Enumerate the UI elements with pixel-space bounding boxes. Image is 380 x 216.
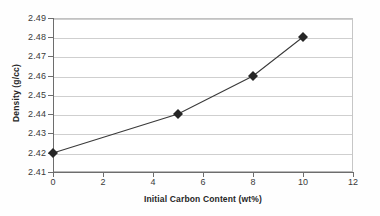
series-markers	[48, 32, 308, 158]
data-point-marker	[48, 148, 58, 158]
y-axis-tick-label: 2.44	[28, 110, 46, 119]
data-point-marker	[248, 71, 258, 81]
series-line	[53, 37, 303, 153]
y-axis-tick-label: 2.48	[28, 33, 46, 42]
x-axis-tick-label: 6	[183, 178, 223, 187]
y-axis-tick-label: 2.43	[28, 129, 46, 138]
y-axis-tick-label: 2.46	[28, 72, 46, 81]
y-axis-tick-label: 2.45	[28, 91, 46, 100]
y-axis-tick-label: 2.47	[28, 52, 46, 61]
x-axis-tick-label: 0	[33, 178, 73, 187]
x-axis-tick-label: 2	[83, 178, 123, 187]
data-point-marker	[298, 32, 308, 42]
x-axis-tick-label: 12	[333, 178, 373, 187]
x-axis-tick-label: 8	[233, 178, 273, 187]
x-axis-title: Initial Carbon Content (wt%)	[53, 194, 353, 204]
y-axis-tick-label: 2.42	[28, 149, 46, 158]
y-axis-tick-label: 2.49	[28, 14, 46, 23]
y-axis-title: Density (g/cc)	[11, 33, 21, 153]
x-axis-tick-label: 4	[133, 178, 173, 187]
data-point-marker	[173, 109, 183, 119]
y-axis-tick-label: 2.41	[28, 168, 46, 177]
x-axis-tick-label: 10	[283, 178, 323, 187]
data-series-layer	[53, 18, 353, 172]
chart-figure: 2.49 2.48 2.47 2.46 2.45 2.44 2.43 2.42 …	[0, 0, 380, 216]
